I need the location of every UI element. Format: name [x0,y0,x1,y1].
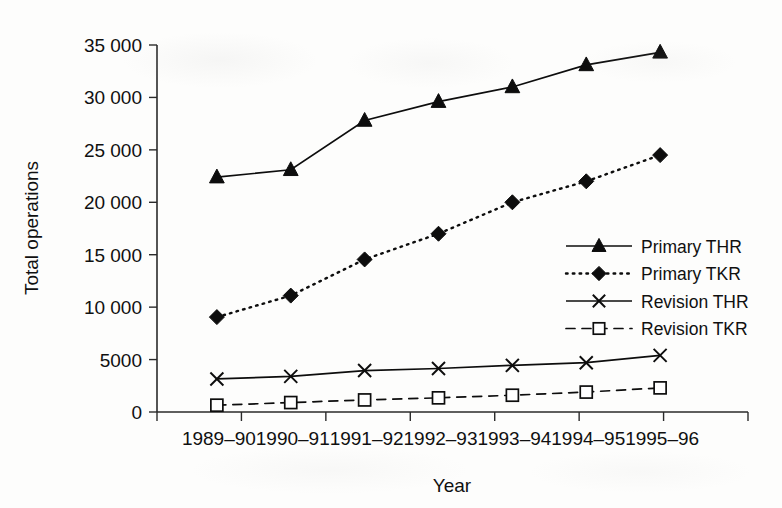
legend-item-revision-thr: Revision THR [566,292,749,312]
y-axis-title: Total operations [21,161,42,295]
legend-label: Revision TKR [641,319,748,339]
marker-diamond [283,288,298,303]
marker-triangle [283,162,298,176]
marker-diamond [653,148,668,163]
legend-item-primary-tkr: Primary TKR [566,264,741,284]
marker-diamond [505,195,520,210]
legend-item-revision-tkr: Revision TKR [566,319,748,339]
marker-diamond [592,266,606,280]
legend-label: Primary TKR [641,264,741,284]
x-tick-label: 1990–91 [256,428,330,449]
series-revision-thr [210,349,666,386]
x-tick-label: 1994–95 [551,428,625,449]
marker-triangle [592,238,606,251]
marker-diamond [209,310,224,325]
marker-square [359,394,371,406]
x-tick-label: 1995–96 [625,428,699,449]
line-chart-plot: 0500010 00015 00020 00025 00030 00035 00… [0,0,782,508]
marker-square [285,397,297,409]
legend-item-primary-thr: Primary THR [566,237,742,257]
y-tick-label: 5000 [100,350,142,371]
x-axis-ticks [157,412,748,421]
y-tick-label: 20 000 [84,192,142,213]
marker-square [506,389,518,401]
y-tick-label: 25 000 [84,140,142,161]
x-tick-label: 1991–92 [330,428,404,449]
y-axis-tick-labels: 0500010 00015 00020 00025 00030 00035 00… [84,35,142,423]
marker-square [593,323,604,334]
legend-label: Primary THR [641,237,742,257]
marker-diamond [431,226,446,241]
x-axis-title: Year [433,475,472,496]
chart-legend: Primary THRPrimary TKRRevision THRRevisi… [566,237,749,340]
marker-triangle [653,44,668,58]
series-revision-tkr [211,382,666,411]
x-tick-label: 1989–90 [182,428,256,449]
data-series-layer [209,44,667,411]
series-primary-tkr [209,148,667,325]
y-tick-label: 10 000 [84,297,142,318]
y-tick-label: 35 000 [84,35,142,56]
marker-diamond [357,252,372,267]
x-tick-label: 1993–94 [477,428,551,449]
marker-diamond [579,174,594,189]
x-tick-label: 1992–93 [404,428,478,449]
y-tick-label: 0 [131,402,142,423]
x-axis-tick-labels: 1989–901990–911991–921992–931993–941994–… [182,428,699,449]
series-primary-thr [210,44,668,183]
chart-figure: 0500010 00015 00020 00025 00030 00035 00… [0,0,782,508]
legend-label: Revision THR [641,292,749,312]
y-axis-ticks [149,45,157,412]
marker-square [654,382,666,394]
marker-square [211,399,223,411]
y-tick-label: 15 000 [84,245,142,266]
y-tick-label: 30 000 [84,87,142,108]
marker-square [433,392,445,404]
marker-square [580,386,592,398]
